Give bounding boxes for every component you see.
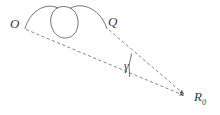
trajectory-curve-right-arc bbox=[71, 6, 108, 29]
label-point-o: O bbox=[10, 17, 19, 30]
trajectory-curve-left-arc bbox=[25, 6, 57, 28]
label-r-subscript: 0 bbox=[202, 98, 206, 107]
dashed-line-o-to-r0 bbox=[26, 30, 184, 96]
label-angle-gamma: γ bbox=[124, 60, 129, 72]
label-r-base: R bbox=[194, 89, 202, 104]
trajectory-loop-circle bbox=[51, 6, 78, 38]
dashed-line-q-to-r0 bbox=[109, 30, 184, 94]
label-point-r-zero: R0 bbox=[194, 90, 206, 107]
label-point-q: Q bbox=[108, 15, 117, 28]
figure-container: O Q γ R0 bbox=[0, 0, 220, 115]
